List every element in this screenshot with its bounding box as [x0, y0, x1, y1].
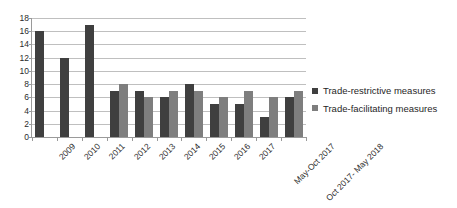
x-tick-label: 2009 — [58, 142, 77, 161]
bar-chart: 181614121086420 200920102011201220132014… — [0, 0, 457, 208]
bar-facilitating — [119, 84, 128, 137]
bar-restrictive — [85, 25, 94, 137]
x-tick-label: 2016 — [232, 142, 251, 161]
x-tick-mark — [107, 137, 108, 141]
bar-facilitating — [244, 91, 253, 137]
x-tick-mark — [181, 137, 182, 141]
bar-restrictive — [185, 84, 194, 137]
bar-restrictive — [160, 97, 169, 137]
legend-item[interactable]: Trade-facilitating measures — [312, 104, 437, 114]
bar-group — [57, 18, 82, 137]
x-tick-label: 2017 — [257, 142, 276, 161]
bar-group — [206, 18, 231, 137]
bar-facilitating — [144, 97, 153, 137]
legend-label: Trade-restrictive measures — [323, 86, 436, 96]
x-tick-mark — [157, 137, 158, 141]
y-tick-label: 18 — [20, 14, 29, 23]
y-tick-label: 0 — [24, 133, 29, 142]
x-tick-mark — [231, 137, 232, 141]
legend-item[interactable]: Trade-restrictive measures — [312, 86, 437, 96]
x-tick-mark — [132, 137, 133, 141]
x-tick-label: 2014 — [183, 142, 202, 161]
bar-group — [157, 18, 182, 137]
bar-restrictive — [235, 104, 244, 137]
legend-swatch-icon — [312, 88, 318, 94]
bar-group — [132, 18, 157, 137]
x-tick-mark — [306, 137, 307, 141]
x-tick-label: 2011 — [108, 142, 127, 161]
y-tick-label: 4 — [24, 106, 29, 115]
y-tick-label: 10 — [20, 67, 29, 76]
x-tick-mark — [256, 137, 257, 141]
bar-restrictive — [110, 91, 119, 137]
legend-swatch-icon — [312, 105, 318, 111]
bar-facilitating — [194, 91, 203, 137]
y-tick-label: 2 — [24, 120, 29, 129]
bar-restrictive — [210, 104, 219, 137]
bar-facilitating — [269, 97, 278, 137]
x-tick-mark — [206, 137, 207, 141]
x-tick-label: 2010 — [83, 142, 102, 161]
bar-facilitating — [294, 91, 303, 137]
y-tick-label: 16 — [20, 27, 29, 36]
x-tick-label: May-Oct 2017 — [292, 142, 336, 186]
bar-facilitating — [169, 91, 178, 137]
bar-group — [32, 18, 57, 137]
x-tick-mark — [57, 137, 58, 141]
x-tick-mark — [82, 137, 83, 141]
bar-group — [82, 18, 107, 137]
x-tick-label: 2013 — [158, 142, 177, 161]
bar-restrictive — [35, 31, 44, 137]
y-tick-label: 12 — [20, 53, 29, 62]
x-tick-label: 2012 — [133, 142, 152, 161]
y-tick-label: 8 — [24, 80, 29, 89]
bar-group — [256, 18, 281, 137]
bar-group — [231, 18, 256, 137]
y-tick-label: 6 — [24, 93, 29, 102]
chart-legend: Trade-restrictive measuresTrade-facilita… — [312, 86, 437, 113]
gridline-0 — [32, 137, 306, 138]
y-tick-label: 14 — [20, 40, 29, 49]
plot-area: 181614121086420 200920102011201220132014… — [31, 18, 305, 137]
bar-group — [107, 18, 132, 137]
bar-restrictive — [260, 117, 269, 137]
x-tick-mark — [32, 137, 33, 141]
legend-label: Trade-facilitating measures — [323, 104, 437, 114]
bar-group — [181, 18, 206, 137]
bar-facilitating — [219, 97, 228, 137]
bars-layer — [32, 18, 306, 137]
bar-restrictive — [285, 97, 294, 137]
x-tick-mark — [281, 137, 282, 141]
bar-restrictive — [135, 91, 144, 137]
bar-group — [281, 18, 306, 137]
x-tick-label: 2015 — [207, 142, 226, 161]
bar-restrictive — [60, 58, 69, 137]
